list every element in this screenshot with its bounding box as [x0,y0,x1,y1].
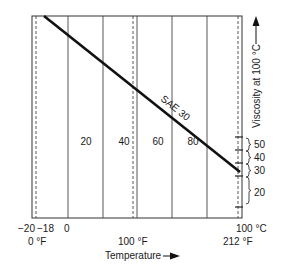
x-tick-minus18c: −18 [37,223,54,234]
x-tick-100c: 100 °C [236,223,267,234]
grade-label-30: 30 [254,165,266,176]
y-axis-arrow-icon [253,16,260,26]
x-tick-100f: 100 °F [118,236,148,247]
grade-label-40: 40 [254,152,266,163]
sae-30-label: SAE 30 [159,93,193,123]
sae-30-line [44,16,240,172]
grade-label-20: 20 [254,187,266,198]
x-tick-0c: 0 [64,223,70,234]
grade-label-50: 50 [254,139,266,150]
x-tick-minus20c: −20 [18,223,35,234]
x-axis-arrow-icon [170,253,180,260]
grid-label-80: 80 [187,136,199,147]
viscosity-temperature-chart: SAE 30 20 40 60 80 50 40 30 20 Viscosity… [0,0,283,276]
x-tick-0f: 0 °F [28,236,46,247]
x-axis-label: Temperature [105,250,162,261]
grid-label-60: 60 [152,136,164,147]
grade-braces [246,138,251,204]
grid-label-40: 40 [118,136,130,147]
x-tick-212f: 212 °F [223,236,253,247]
y-axis-label: Viscosity at 100 °C [251,44,262,128]
grid-label-20: 20 [80,136,92,147]
